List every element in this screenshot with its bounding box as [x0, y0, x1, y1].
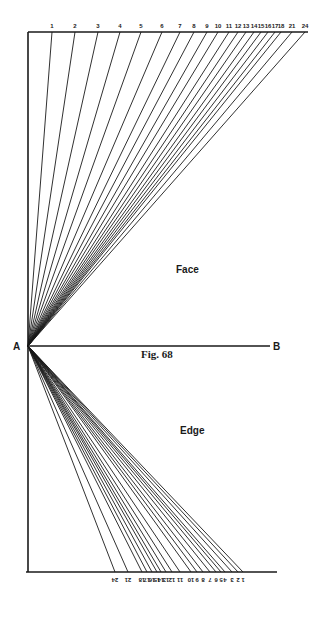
- face-ray-number: 3: [96, 23, 100, 29]
- face-ray: [28, 32, 218, 346]
- fig-68-diagram: 1234567891011121314151617182124 24211817…: [0, 0, 329, 617]
- edge-ray-number: 5: [219, 577, 223, 583]
- figure-caption: Fig. 68: [141, 348, 173, 360]
- edge-ray-number: 7: [208, 577, 212, 583]
- face-ray-number: 24: [302, 23, 309, 29]
- edge-ray-labels: 2421181716151413121110987654321: [111, 577, 245, 583]
- edge-ray: [28, 346, 197, 572]
- face-ray: [28, 32, 246, 346]
- face-ray: [28, 32, 254, 346]
- edge-ray: [28, 346, 216, 572]
- face-ray: [28, 32, 275, 346]
- edge-ray-number: 10: [187, 577, 194, 583]
- face-ray-number: 10: [215, 23, 222, 29]
- face-ray-number: 18: [278, 23, 285, 29]
- edge-ray-number: 13: [162, 577, 169, 583]
- face-ray-labels: 1234567891011121314151617182124: [50, 23, 309, 29]
- face-ray: [28, 32, 180, 346]
- edge-ray-number: 8: [201, 577, 205, 583]
- edge-ray: [28, 346, 166, 572]
- face-rays: [28, 32, 305, 346]
- edge-ray: [28, 346, 232, 572]
- face-ray-number: 9: [205, 23, 209, 29]
- face-ray-number: 13: [243, 23, 250, 29]
- edge-ray-number: 21: [124, 577, 131, 583]
- face-ray-number: 4: [118, 23, 122, 29]
- face-ray-number: 5: [139, 23, 143, 29]
- face-ray-number: 11: [226, 23, 233, 29]
- face-ray: [28, 32, 141, 346]
- face-ray: [28, 32, 238, 346]
- edge-ray: [28, 346, 115, 572]
- face-ray: [28, 32, 305, 346]
- edge-ray-number: 2: [236, 577, 240, 583]
- edge-ray: [28, 346, 172, 572]
- edge-ray: [28, 346, 180, 572]
- face-ray-number: 21: [289, 23, 296, 29]
- face-ray-number: 12: [235, 23, 242, 29]
- edge-ray-number: 1: [241, 577, 245, 583]
- point-a-label: A: [13, 341, 20, 352]
- edge-ray-number: 6: [214, 577, 218, 583]
- face-label: Face: [176, 264, 199, 275]
- point-b-label: B: [273, 341, 280, 352]
- face-ray-number: 7: [178, 23, 182, 29]
- face-ray: [28, 32, 229, 346]
- edge-ray: [28, 346, 203, 572]
- face-ray: [28, 32, 120, 346]
- face-ray-number: 1: [50, 23, 54, 29]
- edge-ray-number: 11: [176, 577, 183, 583]
- face-ray-number: 6: [160, 23, 164, 29]
- face-ray: [28, 32, 194, 346]
- face-ray: [28, 32, 268, 346]
- face-ray-number: 2: [73, 23, 77, 29]
- edge-ray: [28, 346, 191, 572]
- edge-ray-number: 12: [168, 577, 175, 583]
- edge-ray-number: 3: [230, 577, 234, 583]
- edge-ray: [28, 346, 161, 572]
- edge-ray: [28, 346, 210, 572]
- edge-ray: [28, 346, 243, 572]
- face-ray: [28, 32, 207, 346]
- edge-ray-number: 24: [111, 577, 118, 583]
- edge-ray: [28, 346, 157, 572]
- face-ray-number: 8: [192, 23, 196, 29]
- edge-rays: [28, 346, 243, 572]
- edge-ray: [28, 346, 225, 572]
- frame-lines: [26, 32, 308, 572]
- face-ray: [28, 32, 281, 346]
- edge-ray: [28, 346, 147, 572]
- edge-label: Edge: [180, 425, 205, 436]
